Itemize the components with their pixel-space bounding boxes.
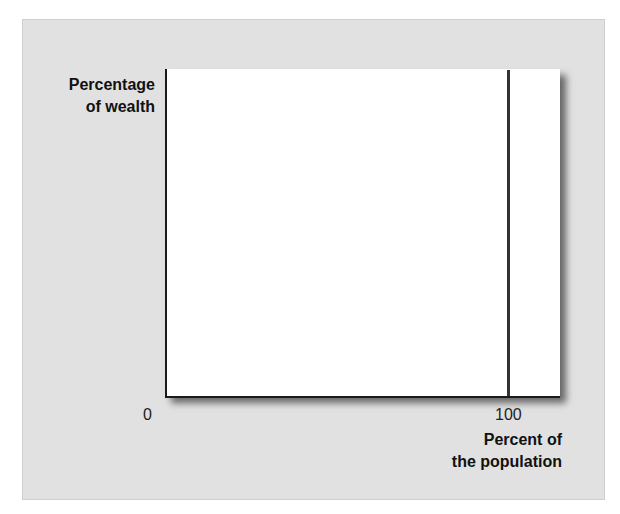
x-axis-label-line-1: Percent of — [452, 429, 562, 451]
x-axis-label-line-2: the population — [452, 451, 562, 473]
y-axis-label-line-2: of wealth — [69, 96, 155, 118]
y-axis — [165, 69, 167, 398]
x-axis-label: Percent of the population — [452, 429, 562, 473]
x-100-vertical-line — [507, 70, 510, 397]
x-tick-0: 0 — [143, 406, 152, 424]
x-axis — [165, 396, 560, 398]
y-axis-label: Percentage of wealth — [69, 74, 155, 118]
x-tick-100: 100 — [495, 406, 522, 424]
y-axis-label-line-1: Percentage — [69, 74, 155, 96]
plot-area — [165, 69, 560, 397]
